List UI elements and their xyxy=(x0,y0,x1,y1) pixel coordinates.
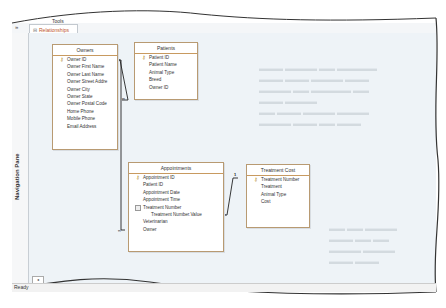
status-text: Ready xyxy=(14,284,28,290)
key-icon: ⚷ xyxy=(60,56,64,63)
table-treatment-cost[interactable]: Treatment Cost ⚷Treatment Number Treatme… xyxy=(246,164,310,228)
field-row[interactable]: Owner First Name xyxy=(53,63,117,70)
table-owners[interactable]: Owners ⚷Owner ID Owner First Name Owner … xyxy=(52,44,118,150)
field-row[interactable]: ⚷Patient ID xyxy=(135,54,197,61)
key-icon: ⚷ xyxy=(254,176,258,183)
field-row[interactable]: Animal Type xyxy=(135,69,197,76)
table-title: Owners xyxy=(53,45,117,56)
expand-icon[interactable] xyxy=(135,205,141,211)
relationship-many-label: ∞ xyxy=(118,228,121,233)
field-row[interactable]: Patient Name xyxy=(135,61,197,68)
field-row[interactable]: Owner State xyxy=(53,93,117,100)
table-title: Appointments xyxy=(129,163,223,174)
field-row[interactable]: Patient ID xyxy=(129,181,223,188)
table-patients[interactable]: Patients ⚷Patient ID Patient Name Animal… xyxy=(134,42,198,100)
field-row[interactable]: Mobile Phone xyxy=(53,115,117,122)
field-row[interactable]: Owner City xyxy=(53,86,117,93)
field-row[interactable]: Animal Type xyxy=(247,191,309,198)
field-row[interactable]: Treatment Number xyxy=(129,204,223,211)
field-row[interactable]: Email Address xyxy=(53,123,117,130)
field-row[interactable]: Veterinarian xyxy=(129,218,223,225)
field-row[interactable]: Owner Street Addre xyxy=(53,78,117,85)
field-row[interactable]: Breed xyxy=(135,76,197,83)
relationship-one-label: 1 xyxy=(234,172,236,177)
field-row[interactable]: ⚷Appointment ID xyxy=(129,174,223,181)
field-row[interactable]: Appointment Time xyxy=(129,196,223,203)
status-bar xyxy=(12,283,436,292)
relationship-many-label: ∞ xyxy=(122,96,125,101)
field-row[interactable]: ⚷Treatment Number xyxy=(247,176,309,183)
field-row[interactable]: Home Phone xyxy=(53,108,117,115)
key-icon: ⚷ xyxy=(136,174,140,181)
field-row[interactable]: Cost xyxy=(247,198,309,205)
field-row[interactable]: ⚷Owner ID xyxy=(53,56,117,63)
field-row[interactable]: Owner Postal Code xyxy=(53,100,117,107)
table-title: Treatment Cost xyxy=(247,165,309,176)
field-row[interactable]: Treatment xyxy=(247,183,309,190)
field-row[interactable]: Treatment Number.Value xyxy=(129,211,223,218)
field-row[interactable]: Owner ID xyxy=(135,84,197,91)
field-row[interactable]: Appointment Date xyxy=(129,189,223,196)
table-appointments[interactable]: Appointments ⚷Appointment ID Patient ID … xyxy=(128,162,224,252)
field-row[interactable]: Owner Last Name xyxy=(53,71,117,78)
key-icon: ⚷ xyxy=(142,54,146,61)
table-title: Patients xyxy=(135,43,197,54)
field-row[interactable]: Owner xyxy=(129,226,223,233)
